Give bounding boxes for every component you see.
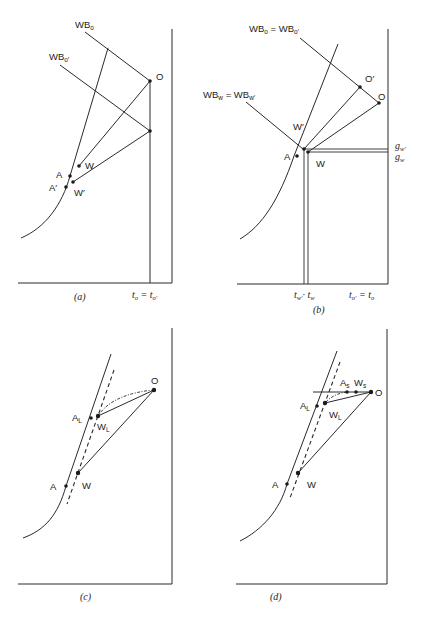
panel-d-label-w-l: WL (329, 409, 342, 421)
panel-c-label-a-l: AL (72, 412, 82, 424)
panel-a-point-a (68, 174, 72, 178)
panel-b-point-w-prime (302, 147, 306, 151)
panel-c-o-wl-line (98, 390, 154, 416)
panel-a-point-a-prime (64, 185, 68, 189)
panel-a-label-w-prime: W′ (74, 187, 85, 198)
panel-b-label-g-w: gw (395, 151, 405, 163)
panel-d-caption: (d) (270, 591, 282, 603)
panel-d-point-o (369, 390, 373, 394)
panel-a-point-o (148, 79, 152, 83)
panel-c-label-a: A (50, 481, 57, 492)
panel-d-point-a-l (315, 404, 319, 408)
panel-d-point-w-s (354, 390, 358, 394)
panel-d-label-a: A (272, 479, 279, 490)
panel-c-label-o: O (151, 375, 158, 386)
panel-d-process-curve (325, 392, 347, 403)
panel-d-point-a-s (345, 390, 349, 394)
panel-b-o-prime-w-prime-line (304, 87, 360, 149)
panel-d-point-w (296, 471, 300, 475)
panel-b-label-a: A (284, 151, 291, 162)
panel-b-caption: (b) (313, 304, 325, 316)
panel-d-point-a (285, 482, 289, 486)
panel-a-point-w (77, 164, 81, 168)
panel-b-label-t-w: tw′· tw (294, 289, 315, 301)
panel-d-label-a-l: AL (300, 400, 310, 412)
panel-b-label-w: W (316, 158, 325, 169)
panel-b-label-o: O (378, 91, 385, 102)
panel-b: WBo = WBo′ WBw = WBw′ O′ O W′ W A gw′ gw… (203, 23, 406, 316)
panel-c-label-w: W (82, 480, 91, 491)
panel-a: WBo WBo′ O W W′ A A′ to = to′ (a) (18, 19, 172, 303)
panel-a-o-prime-w-prime-line (73, 131, 150, 182)
panel-c-point-a (64, 484, 68, 488)
panel-a-saturation-curve (21, 48, 108, 238)
figure-diagram: WBo WBo′ O W W′ A A′ to = to′ (a) (0, 0, 421, 617)
panel-d-label-o: O (375, 387, 382, 398)
panel-b-label-wb-w-eq: WBw = WBw′ (203, 89, 256, 101)
panel-c-point-a-l (89, 416, 93, 420)
panel-c: O AL WL A W (c) (18, 328, 172, 603)
panel-b-label-wb-o-eq: WBo = WBo′ (249, 23, 300, 35)
panel-c-point-w (76, 471, 80, 475)
panel-b-wb-o-line (300, 38, 379, 103)
panel-a-point-w-prime (71, 180, 75, 184)
panel-d-label-w: W (307, 479, 316, 490)
panel-c-label-w-l: WL (97, 421, 110, 433)
panel-c-saturation-curve (23, 354, 111, 538)
panel-c-point-w-l (96, 414, 100, 418)
panel-d-label-a-s: As (340, 377, 350, 389)
panel-b-label-t-o: to′ = to (349, 289, 375, 301)
panel-a-caption: (a) (74, 291, 86, 303)
panel-d-point-w-l (323, 401, 327, 405)
panel-b-o-w-line (308, 103, 379, 152)
panel-c-point-o (152, 388, 156, 392)
panel-a-label-w: W (85, 160, 94, 171)
panel-a-label-a-prime: A′ (49, 182, 57, 193)
panel-b-point-w (306, 150, 310, 154)
panel-d-label-w-s: Ws (354, 377, 367, 389)
panel-d-dashed-line (290, 362, 340, 498)
panel-a-label-t-axis: to = to′ (132, 289, 158, 301)
panel-a-wb-o-line (85, 32, 150, 81)
panel-c-caption: (c) (80, 591, 92, 603)
panel-a-point-o-prime (148, 129, 152, 133)
panel-b-label-o-prime: O′ (365, 73, 374, 84)
panel-b-label-w-prime: W′ (293, 121, 304, 132)
panel-b-point-a (295, 154, 299, 158)
panel-a-label-wb-o: WBo (75, 19, 94, 31)
panel-c-o-w-line (78, 390, 154, 473)
panel-d: As Ws O AL WL A W (d) (236, 329, 387, 603)
panel-a-label-a: A (56, 169, 63, 180)
panel-b-point-o-prime (358, 85, 362, 89)
panel-a-label-o: O (156, 71, 163, 82)
panel-a-wb-o-prime-line (60, 65, 150, 131)
panel-a-label-wb-o-prime: WBo′ (49, 51, 70, 63)
